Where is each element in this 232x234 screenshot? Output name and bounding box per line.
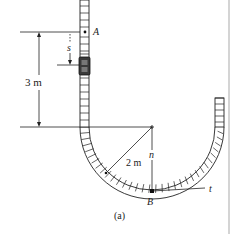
label-height: 3 m xyxy=(25,76,42,88)
point-b-marker xyxy=(150,189,154,193)
radius-end-marker xyxy=(105,172,108,175)
height-arrow-down xyxy=(37,122,41,127)
figure-caption: (a) xyxy=(114,210,125,222)
coaster-car xyxy=(79,57,90,75)
label-t-axis: t xyxy=(209,183,212,194)
label-point-a: A xyxy=(92,26,100,37)
label-s: s xyxy=(67,42,71,53)
s-arrow-down xyxy=(68,60,72,65)
label-radius: 2 m xyxy=(126,157,142,168)
label-point-b: B xyxy=(147,196,153,207)
roller-coaster-diagram: A s 3 m 2 m n t B (a) xyxy=(0,0,232,234)
height-arrow-up xyxy=(37,32,41,37)
track-vertical-right xyxy=(215,98,224,127)
point-a-marker xyxy=(84,31,87,34)
label-n-axis: n xyxy=(149,149,154,160)
dimension-lines xyxy=(20,32,205,191)
